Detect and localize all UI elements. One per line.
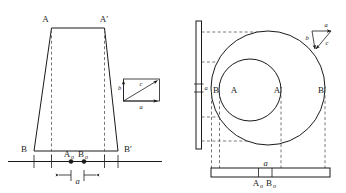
vector-c-right: [316, 31, 331, 49]
inner-circle-AA-prime: [219, 59, 281, 121]
label-dimension-a: a: [75, 176, 79, 186]
label-plate-dimension-a: a: [204, 84, 207, 91]
label-A-top-left: A: [42, 14, 49, 24]
vector-b-right: [312, 31, 315, 49]
figure-root: A A′ B B′ A o B o a b c a: [0, 0, 346, 193]
label-vector-c-left: c: [140, 80, 143, 87]
label-A-prime-inner-right: A′: [274, 85, 282, 95]
left-front-view: A A′ B B′ A o B o a: [8, 14, 162, 186]
ground-point-A0-dot: [69, 159, 73, 163]
label-A0: A: [64, 149, 71, 159]
label-bottom-A0: A: [253, 178, 260, 188]
velocity-triangle-right: a b c: [305, 21, 331, 49]
ground-point-B0-dot: [82, 159, 86, 163]
label-vector-c-right: c: [326, 39, 329, 46]
label-vector-a-left: a: [139, 103, 142, 110]
label-B-outer-left: B: [213, 85, 219, 95]
label-A-prime-top-right: A′: [100, 14, 108, 24]
label-vector-a-right: a: [324, 21, 327, 28]
label-B-bottom-left: B: [21, 144, 27, 154]
technical-diagram: A A′ B B′ A o B o a b c a: [0, 0, 346, 193]
frustum-outline: [34, 28, 118, 151]
label-bottom-B0: B: [266, 178, 272, 188]
right-plan-view: a B A A′ B′ a: [194, 21, 330, 189]
label-A-inner-left: A: [231, 85, 238, 95]
label-vector-b-right: b: [305, 34, 309, 41]
label-bottom-dimension-a: a: [263, 158, 267, 168]
label-B-prime-bottom-right: B′: [124, 144, 132, 154]
velocity-triangle-left: b c a: [118, 79, 160, 110]
label-vector-b-left: b: [118, 84, 122, 91]
label-B0-subscript: o: [85, 154, 88, 160]
label-B0: B: [78, 149, 84, 159]
label-bottom-A0-subscript: o: [260, 183, 263, 189]
vertical-plate: [196, 21, 202, 149]
bottom-plate: [211, 168, 330, 177]
label-A0-subscript: o: [71, 154, 74, 160]
label-B-prime-outer-right: B′: [318, 85, 326, 95]
label-bottom-B0-subscript: o: [273, 183, 276, 189]
